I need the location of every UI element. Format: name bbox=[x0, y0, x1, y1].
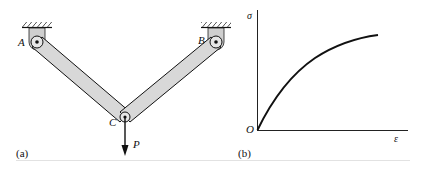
stress-strain-curve bbox=[258, 35, 379, 130]
label-c: C bbox=[109, 117, 116, 128]
label-b: B bbox=[198, 35, 205, 46]
pin-a bbox=[31, 36, 43, 48]
bar-ac bbox=[32, 37, 130, 122]
label-a: A bbox=[18, 37, 25, 48]
caption-a: (a) bbox=[16, 148, 28, 159]
chart-axes bbox=[257, 10, 408, 131]
label-p: P bbox=[133, 139, 140, 150]
y-axis-label: σ bbox=[247, 11, 252, 21]
origin-label: O bbox=[246, 124, 254, 135]
bar-bc bbox=[120, 37, 221, 122]
figure-canvas bbox=[0, 0, 422, 173]
load-arrow-icon bbox=[122, 117, 129, 156]
caption-b: (b) bbox=[238, 148, 251, 159]
x-axis-label: ε bbox=[394, 134, 398, 144]
pin-b bbox=[210, 36, 222, 48]
